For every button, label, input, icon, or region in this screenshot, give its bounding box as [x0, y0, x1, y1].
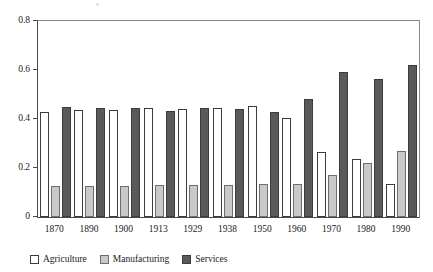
bar-services-1980 — [374, 79, 383, 217]
bar-manufacturing-1900 — [120, 186, 129, 217]
bar-services-1960 — [304, 99, 313, 217]
x-axis-tick-label-1870: 1870 — [37, 222, 72, 236]
bar-manufacturing-1870 — [51, 186, 60, 217]
bar-services-1870 — [62, 107, 71, 217]
y-axis-tick-label: 0.8 — [18, 14, 30, 27]
bar-services-1950 — [270, 112, 279, 217]
legend-label-manufacturing: Manufacturing — [113, 253, 169, 266]
bar-group-1980 — [352, 21, 383, 217]
bar-services-1938 — [235, 109, 244, 217]
x-axis-tick-label-1960: 1960 — [279, 222, 314, 236]
x-axis: 1870189019001913192919381950196019701980… — [37, 222, 420, 238]
bar-manufacturing-1938 — [224, 185, 233, 217]
bar-manufacturing-1990 — [397, 151, 406, 217]
bar-group-1990 — [386, 21, 417, 217]
y-axis-tick-label: 0.2 — [18, 161, 30, 174]
x-axis-tick-label-1970: 1970 — [314, 222, 349, 236]
legend-label-services: Services — [195, 253, 227, 266]
bar-agriculture-1980 — [352, 159, 361, 217]
bar-group-1870 — [40, 21, 71, 217]
x-axis-tick-label-1990: 1990 — [383, 222, 418, 236]
bar-agriculture-1990 — [386, 184, 395, 217]
bar-services-1890 — [96, 108, 105, 217]
legend-item-agriculture: Agriculture — [30, 253, 87, 266]
x-axis-tick-label-1890: 1890 — [72, 222, 107, 236]
bar-chart-figure: 00.20.40.60.8 18701890190019131929193819… — [0, 0, 433, 272]
bar-services-1990 — [408, 65, 417, 217]
bar-agriculture-1950 — [248, 106, 257, 217]
bar-services-1970 — [339, 72, 348, 217]
y-axis-tick-label: 0.6 — [18, 63, 30, 76]
x-axis-tick-label-1950: 1950 — [245, 222, 280, 236]
bar-manufacturing-1960 — [293, 184, 302, 217]
plot-area: 00.20.40.60.8 — [37, 20, 420, 218]
bar-services-1900 — [131, 108, 140, 218]
y-axis-tick-label: 0 — [25, 210, 30, 223]
bar-agriculture-1960 — [282, 118, 291, 217]
scan-artifact-speck — [96, 3, 99, 6]
legend-label-agriculture: Agriculture — [43, 253, 87, 266]
legend-swatch-manufacturing — [100, 255, 109, 264]
bar-group-1913 — [144, 21, 175, 217]
bar-manufacturing-1890 — [85, 186, 94, 217]
bar-agriculture-1970 — [317, 152, 326, 217]
bar-agriculture-1938 — [213, 108, 222, 218]
legend-item-manufacturing: Manufacturing — [100, 253, 169, 266]
legend-item-services: Services — [182, 253, 227, 266]
bars-layer — [38, 21, 419, 217]
bar-group-1938 — [213, 21, 244, 217]
bar-manufacturing-1929 — [189, 185, 198, 217]
x-axis-tick-label-1900: 1900 — [106, 222, 141, 236]
bar-services-1929 — [200, 108, 209, 217]
bar-group-1970 — [317, 21, 348, 217]
x-axis-tick-label-1938: 1938 — [210, 222, 245, 236]
bar-manufacturing-1950 — [259, 184, 268, 217]
bar-group-1950 — [248, 21, 279, 217]
y-axis-tick-label: 0.4 — [18, 112, 30, 125]
bar-agriculture-1913 — [144, 108, 153, 218]
bar-manufacturing-1970 — [328, 175, 337, 217]
bar-agriculture-1870 — [40, 112, 49, 217]
bar-manufacturing-1980 — [363, 163, 372, 217]
x-axis-tick-label-1980: 1980 — [349, 222, 384, 236]
bar-agriculture-1890 — [74, 110, 83, 217]
bar-group-1890 — [74, 21, 105, 217]
x-axis-tick-label-1929: 1929 — [176, 222, 211, 236]
x-axis-tick-label-1913: 1913 — [141, 222, 176, 236]
bar-group-1929 — [178, 21, 209, 217]
bar-group-1900 — [109, 21, 140, 217]
bar-services-1913 — [166, 111, 175, 217]
bar-agriculture-1929 — [178, 109, 187, 217]
legend-swatch-agriculture — [30, 255, 39, 264]
bar-agriculture-1900 — [109, 110, 118, 217]
bar-manufacturing-1913 — [155, 185, 164, 217]
legend-swatch-services — [182, 255, 191, 264]
bar-group-1960 — [282, 21, 313, 217]
chart-legend: AgricultureManufacturingServices — [30, 251, 227, 267]
